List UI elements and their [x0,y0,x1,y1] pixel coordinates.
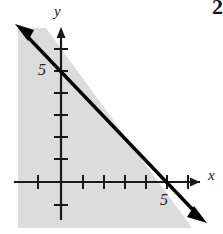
y-axis-label: y [54,4,61,19]
inequality-graph-figure: y x 5 5 2 [0,0,223,234]
problem-number: 2 [212,0,223,18]
x-axis-tick-label-5: 5 [160,192,168,208]
graph-canvas [0,0,223,234]
x-axis-label: x [208,168,215,183]
y-axis-tick-label-5: 5 [38,62,46,78]
